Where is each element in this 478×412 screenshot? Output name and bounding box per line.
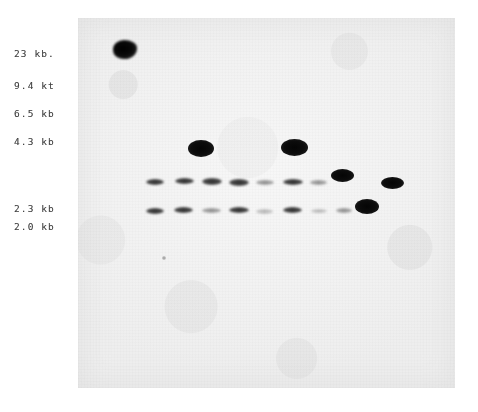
band-2.0kb-lane7 bbox=[311, 209, 327, 213]
band-4.3kb-lane3 bbox=[188, 140, 214, 157]
band-2.3kb-lane1 bbox=[146, 179, 164, 185]
band-2.3kb-lane6 bbox=[283, 179, 303, 185]
marker-label-9-4kb: 9.4 kt bbox=[14, 80, 55, 91]
film-dust-speck bbox=[162, 256, 166, 260]
blot-membrane bbox=[78, 18, 455, 388]
band-2.0kb-lane2 bbox=[174, 207, 193, 213]
band-2.0kb-lane1 bbox=[146, 208, 164, 214]
marker-label-2kb: 2.0 kb bbox=[14, 221, 55, 232]
band-2.0kb-lane8 bbox=[336, 208, 352, 213]
loading-well-artifact bbox=[113, 40, 137, 59]
band-2.0kb-lane4 bbox=[229, 207, 249, 213]
band-2.0kb-lane6 bbox=[283, 207, 302, 213]
marker-label-4-3kb: 4.3 kb bbox=[14, 136, 55, 147]
band-2.1kb-lane10 bbox=[355, 199, 379, 214]
band-4.3kb-lane7 bbox=[281, 139, 308, 156]
marker-label-2-3kb: 2.3 kb bbox=[14, 203, 55, 214]
southern-blot-figure: 23 kb.9.4 kt6.5 kb4.3 kb2.3 kb2.0 kb bbox=[0, 0, 478, 412]
band-2.0kb-lane5 bbox=[256, 209, 273, 214]
band-2.3kb-lane3 bbox=[202, 178, 222, 185]
band-2.0kb-lane3 bbox=[202, 208, 221, 213]
band-2.5kb-lane11 bbox=[381, 177, 404, 189]
band-2.3kb-lane2 bbox=[175, 178, 194, 184]
marker-label-23kb: 23 kb. bbox=[14, 48, 55, 59]
band-2.3kb-lane7 bbox=[310, 180, 327, 185]
band-2.3kb-lane4 bbox=[229, 179, 249, 186]
band-2.5kb-lane9 bbox=[331, 169, 354, 182]
band-2.3kb-lane5 bbox=[256, 180, 274, 185]
marker-label-6-5kb: 6.5 kb bbox=[14, 108, 55, 119]
